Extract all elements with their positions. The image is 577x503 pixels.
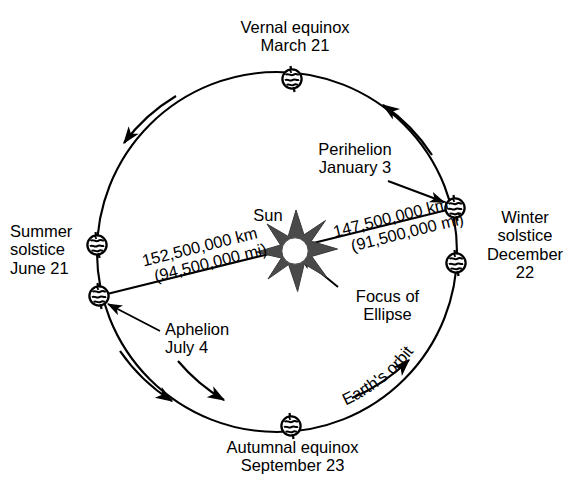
label-summer-solstice: Summer solstice June 21 [10,222,98,277]
perihelion-line2: January 3 [295,158,415,176]
vernal-equinox-line1: Vernal equinox [215,18,375,36]
earth-icon-winter-solstice [446,250,465,276]
autumnal-equinox-line2: September 23 [205,456,380,474]
label-sun: Sun [240,206,296,224]
label-aphelion: Aphelion July 4 [165,320,265,357]
summer-solstice-line2: solstice [10,240,98,258]
label-focus-of-ellipse: Focus of Ellipse [335,287,440,324]
earth-icon-vernal-equinox [282,66,301,92]
winter-solstice-line1: Winter [477,208,573,226]
label-perihelion: Perihelion January 3 [295,140,415,177]
earths-orbit-label: Earth's orbit [339,342,416,408]
orbit-diagram: Earth's orbit Vernal equinox March 21 Pe… [0,0,577,503]
autumnal-equinox-line1: Autumnal equinox [205,438,380,456]
focus-line2: Ellipse [335,305,440,323]
direction-arrow-bottom-left [178,361,224,400]
winter-solstice-line2: solstice [477,226,573,244]
winter-solstice-line3: December [477,245,573,263]
vernal-equinox-line2: March 21 [215,36,375,54]
aphelion-leader-line [108,304,160,331]
label-vernal-equinox: Vernal equinox March 21 [215,18,375,55]
label-winter-solstice: Winter solstice December 22 [477,208,573,282]
earth-icon-autumnal-equinox [281,413,300,439]
perihelion-line1: Perihelion [295,140,415,158]
sun-text: Sun [240,206,296,224]
aphelion-line1: Aphelion [165,320,265,338]
summer-solstice-line1: Summer [10,222,98,240]
earths-orbit-text: Earth's orbit [339,342,416,408]
direction-arrow-top-left [124,96,176,143]
aphelion-line2: July 4 [165,338,265,356]
focus-line1: Focus of [335,287,440,305]
summer-solstice-line3: June 21 [10,259,98,277]
label-autumnal-equinox: Autumnal equinox September 23 [205,438,380,475]
winter-solstice-line4: 22 [477,263,573,281]
